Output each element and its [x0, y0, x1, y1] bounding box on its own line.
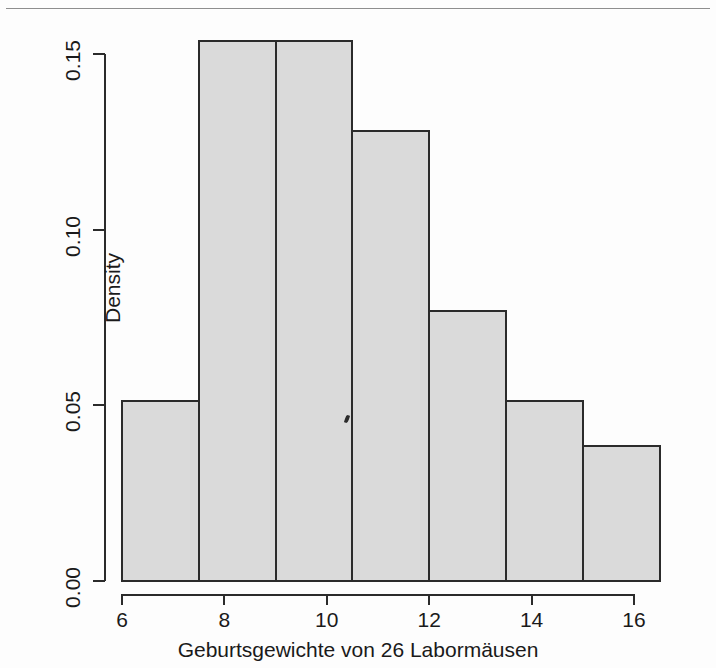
x-axis-tick-label: 16	[614, 608, 654, 632]
histogram-bar	[351, 130, 430, 582]
histogram-figure: 0.000.050.100.15 Density 6810121416 Gebu…	[0, 14, 716, 668]
x-axis-line	[121, 594, 635, 596]
x-axis-tick	[633, 594, 635, 605]
x-axis-tick-label: 10	[307, 608, 347, 632]
y-axis-tick	[93, 53, 105, 55]
y-axis-tick	[93, 580, 105, 582]
y-axis-tick-label: 0.05	[61, 391, 85, 477]
scanned-page: 0.000.050.100.15 Density 6810121416 Gebu…	[0, 0, 716, 668]
y-axis-tick-label: 0.15	[61, 40, 85, 126]
plot-area: 0.000.050.100.15 Density 6810121416 Gebu…	[0, 14, 716, 668]
x-axis-tick	[531, 594, 533, 605]
y-axis-title-text: Density	[101, 253, 125, 323]
x-axis-tick	[428, 594, 430, 605]
x-axis-tick	[121, 594, 123, 605]
histogram-bar	[582, 445, 661, 582]
x-axis-tick-label: 12	[409, 608, 449, 632]
y-axis-tick	[93, 404, 105, 406]
x-axis-tick	[223, 594, 225, 605]
histogram-bar	[198, 40, 277, 582]
y-axis-tick-label: 0.10	[61, 216, 85, 302]
x-axis-tick-label: 14	[512, 608, 552, 632]
x-axis-tick-label: 6	[102, 608, 142, 632]
y-axis-tick	[93, 229, 105, 231]
histogram-bar	[275, 40, 354, 582]
histogram-bar	[428, 310, 507, 582]
histogram-bar	[505, 400, 584, 582]
x-axis-title: Geburtsgewichte von 26 Labormäusen	[0, 638, 716, 662]
histogram-bar	[121, 400, 200, 582]
x-axis-tick	[326, 594, 328, 605]
page-top-rule	[6, 8, 710, 9]
x-axis-tick-label: 8	[204, 608, 244, 632]
